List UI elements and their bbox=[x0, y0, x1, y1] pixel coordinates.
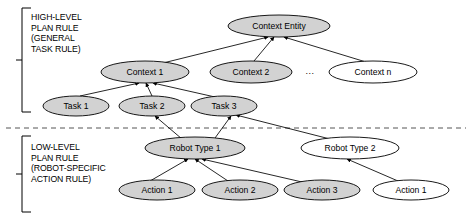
node-label-action-2: Action 2 bbox=[224, 185, 255, 195]
diagram-canvas: Context EntityContext 1Context 2Context … bbox=[0, 0, 470, 219]
node-action-3[interactable]: Action 3 bbox=[284, 180, 360, 200]
node-label-context-entity: Context Entity bbox=[252, 21, 306, 31]
edge-task-2-to-context-1 bbox=[146, 83, 152, 96]
node-label-action-1b: Action 1 bbox=[395, 185, 426, 195]
edge-context-n-to-context-entity bbox=[284, 37, 366, 62]
group-bracket-high-level bbox=[22, 8, 31, 112]
node-label-robot-type-1: Robot Type 1 bbox=[170, 143, 221, 153]
node-label-context-1: Context 1 bbox=[127, 67, 164, 77]
node-label-context-n: Context n bbox=[355, 67, 392, 77]
ellipsis-marker: ... bbox=[305, 66, 314, 76]
edge-task-3-to-context-1 bbox=[153, 83, 215, 97]
node-label-context-2: Context 2 bbox=[233, 67, 270, 77]
edge-robot-type-2-to-task-3 bbox=[236, 115, 330, 139]
node-label-task-2: Task 2 bbox=[140, 101, 165, 111]
group-caption-low-level: LOW-LEVEL PLAN RULE (ROBOT-SPECIFIC ACTI… bbox=[31, 142, 106, 184]
node-task-2[interactable]: Task 2 bbox=[119, 96, 185, 116]
edge-action-2-to-robot-type-1 bbox=[195, 159, 228, 181]
node-action-1a[interactable]: Action 1 bbox=[119, 180, 195, 200]
node-label-task-3: Task 3 bbox=[212, 101, 237, 111]
group-caption-high-level: HIGH-LEVEL PLAN RULE (GENERAL TASK RULE) bbox=[31, 12, 82, 54]
edge-action-3-to-robot-type-1 bbox=[202, 159, 302, 182]
node-label-task-1: Task 1 bbox=[64, 101, 89, 111]
edge-action-1b-to-robot-type-2 bbox=[347, 159, 398, 181]
node-task-1[interactable]: Task 1 bbox=[43, 96, 109, 116]
node-label-robot-type-2: Robot Type 2 bbox=[325, 143, 376, 153]
node-context-2[interactable]: Context 2 bbox=[210, 61, 292, 83]
node-context-1[interactable]: Context 1 bbox=[101, 61, 189, 83]
group-brackets bbox=[16, 8, 31, 212]
node-context-n[interactable]: Context n bbox=[329, 61, 417, 83]
edge-robot-type-1-to-task-3 bbox=[215, 116, 231, 138]
edge-context-1-to-context-entity bbox=[163, 37, 268, 63]
group-bracket-low-level bbox=[22, 136, 31, 212]
node-context-entity[interactable]: Context Entity bbox=[228, 15, 330, 37]
node-task-3[interactable]: Task 3 bbox=[191, 96, 257, 116]
edge-context-2-to-context-entity bbox=[254, 37, 274, 61]
node-robot-type-1[interactable]: Robot Type 1 bbox=[145, 137, 245, 159]
edge-action-1a-to-robot-type-1 bbox=[150, 159, 188, 181]
edge-task-1-to-context-1 bbox=[80, 83, 139, 96]
node-action-2[interactable]: Action 2 bbox=[202, 180, 278, 200]
node-label-action-1a: Action 1 bbox=[141, 185, 172, 195]
ellipsis-label: ... bbox=[305, 66, 314, 76]
node-action-1b[interactable]: Action 1 bbox=[373, 180, 449, 200]
node-label-action-3: Action 3 bbox=[306, 185, 337, 195]
node-robot-type-2[interactable]: Robot Type 2 bbox=[301, 137, 399, 159]
